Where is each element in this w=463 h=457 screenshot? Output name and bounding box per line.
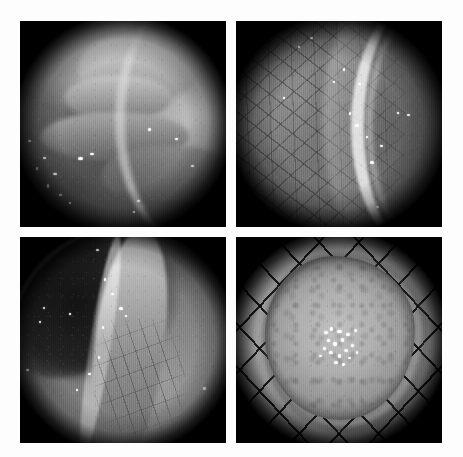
specimen-panel-bottom-right <box>236 237 442 443</box>
endoscopy-panel-bottom-left <box>20 237 226 443</box>
panel-1-image <box>20 21 226 227</box>
endoscope-bright-rim <box>20 237 226 443</box>
figure-panel-grid <box>20 21 442 443</box>
caption-strip <box>0 0 463 9</box>
endoscopy-panel-top-right <box>236 21 442 227</box>
panel-3-image <box>20 237 226 443</box>
panel-2-image <box>236 21 442 227</box>
central-white-fleck-cluster <box>318 321 372 375</box>
panel-4-image <box>236 237 442 443</box>
endoscopy-panel-top-left <box>20 21 226 227</box>
bright-arc-right <box>115 21 226 227</box>
